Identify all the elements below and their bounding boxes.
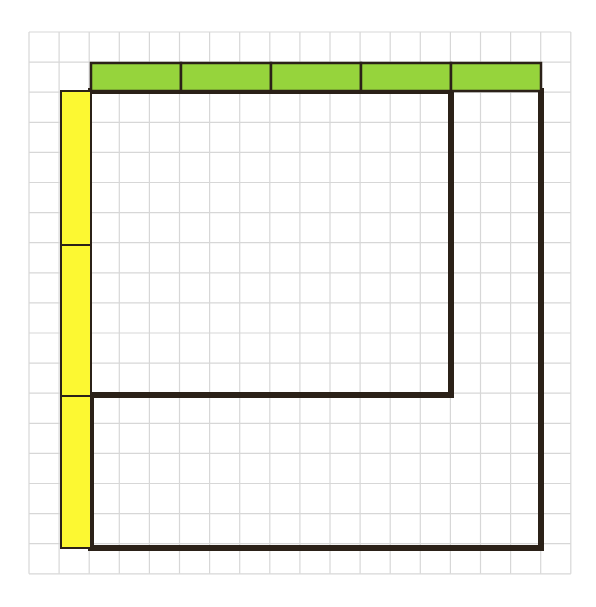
green-strip-segment — [361, 63, 451, 91]
yellow-measuring-strip — [61, 91, 91, 548]
green-strip-segment — [271, 63, 361, 91]
green-strip-segment — [181, 63, 271, 91]
yellow-strip-segment — [61, 396, 91, 548]
green-strip-segment — [451, 63, 541, 91]
green-measuring-strip — [91, 63, 541, 91]
figure-canvas — [0, 0, 596, 607]
yellow-strip-segment — [61, 245, 91, 396]
grid-figure-svg — [0, 0, 596, 607]
yellow-strip-segment — [61, 91, 91, 245]
green-strip-segment — [91, 63, 181, 91]
